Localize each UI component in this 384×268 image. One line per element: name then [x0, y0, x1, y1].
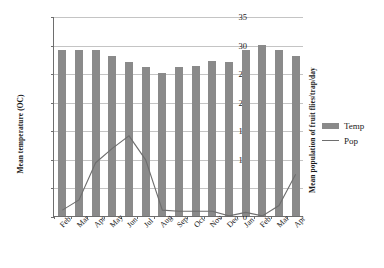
y-axis-left-title: Mean temperature (OC) [16, 94, 25, 173]
legend-label: Pop [344, 136, 358, 146]
legend-item-pop[interactable]: Pop [322, 133, 364, 148]
y-axis-right-title: Mean population of fruit flies/trap/day [308, 67, 317, 193]
line-series-pop [54, 17, 304, 217]
chart-legend: TempPop [322, 118, 364, 148]
legend-line-swatch-icon [322, 140, 339, 141]
chart-container: Mean temperature (OC) Mean population of… [0, 0, 384, 268]
legend-bar-swatch-icon [322, 123, 339, 129]
x-axis-tick-label: Jul [142, 216, 155, 229]
legend-item-temp[interactable]: Temp [322, 118, 364, 133]
legend-label: Temp [344, 121, 364, 131]
plot-area: 05101520253035 [53, 17, 303, 217]
pop-polyline [62, 136, 295, 216]
